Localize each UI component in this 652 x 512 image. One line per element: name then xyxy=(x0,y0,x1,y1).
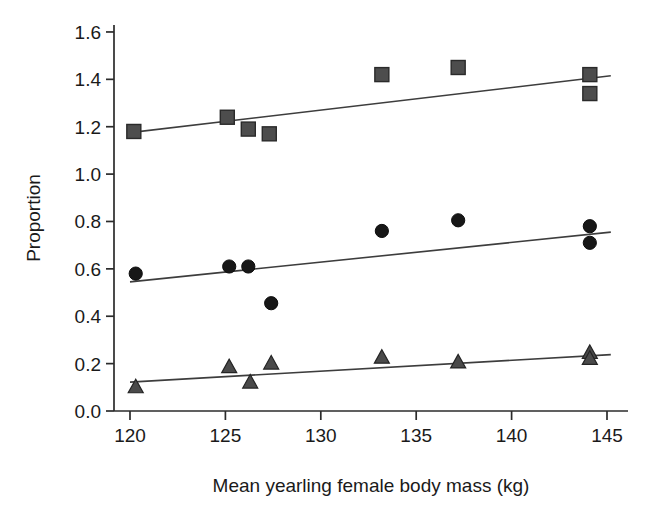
x-tick-label: 130 xyxy=(305,425,337,446)
x-tick-label: 145 xyxy=(591,425,623,446)
marker-circle xyxy=(223,260,236,273)
y-tick-label: 1.0 xyxy=(75,164,101,185)
trendline-squares xyxy=(130,76,611,133)
x-axis-title: Mean yearling female body mass (kg) xyxy=(213,475,530,496)
y-tick-label: 0.6 xyxy=(75,259,101,280)
marker-triangle xyxy=(243,375,258,389)
y-axis-title: Proportion xyxy=(23,174,44,262)
x-tick-label: 135 xyxy=(400,425,432,446)
marker-circle xyxy=(265,297,278,310)
marker-triangle xyxy=(451,354,466,368)
marker-triangle xyxy=(374,350,389,364)
marker-triangle xyxy=(264,356,279,370)
y-tick-label: 1.6 xyxy=(75,22,101,43)
marker-square xyxy=(375,68,389,82)
scatter-plot-figure: 0.00.20.40.60.81.01.21.41.6 120125130135… xyxy=(0,0,652,512)
marker-square xyxy=(262,127,276,141)
marker-square xyxy=(583,87,597,101)
marker-circle xyxy=(583,220,596,233)
marker-circle xyxy=(242,260,255,273)
marker-square xyxy=(583,68,597,82)
y-axis: 0.00.20.40.60.81.01.21.41.6 xyxy=(75,22,114,422)
marker-triangle xyxy=(222,359,237,373)
trendline-circles xyxy=(130,232,611,282)
marker-circle xyxy=(129,267,142,280)
marker-circle xyxy=(452,214,465,227)
x-tick-label: 120 xyxy=(114,425,146,446)
x-tick-label: 125 xyxy=(210,425,242,446)
x-axis: 120125130135140145 xyxy=(114,411,628,446)
trendlines xyxy=(130,76,611,382)
y-tick-label: 0.8 xyxy=(75,211,101,232)
y-tick-label: 1.2 xyxy=(75,117,101,138)
marker-circle xyxy=(583,236,596,249)
marker-square xyxy=(241,122,255,136)
y-tick-label: 0.2 xyxy=(75,354,101,375)
data-markers xyxy=(127,60,598,392)
plot-canvas: 0.00.20.40.60.81.01.21.41.6 120125130135… xyxy=(0,0,652,512)
trendline-triangles xyxy=(130,355,611,382)
marker-square xyxy=(127,124,141,138)
x-tick-label: 140 xyxy=(496,425,528,446)
y-tick-label: 0.0 xyxy=(75,401,101,422)
y-tick-label: 0.4 xyxy=(75,306,102,327)
y-tick-label: 1.4 xyxy=(75,69,102,90)
marker-circle xyxy=(375,224,388,237)
marker-square xyxy=(451,60,465,74)
marker-square xyxy=(220,110,234,124)
